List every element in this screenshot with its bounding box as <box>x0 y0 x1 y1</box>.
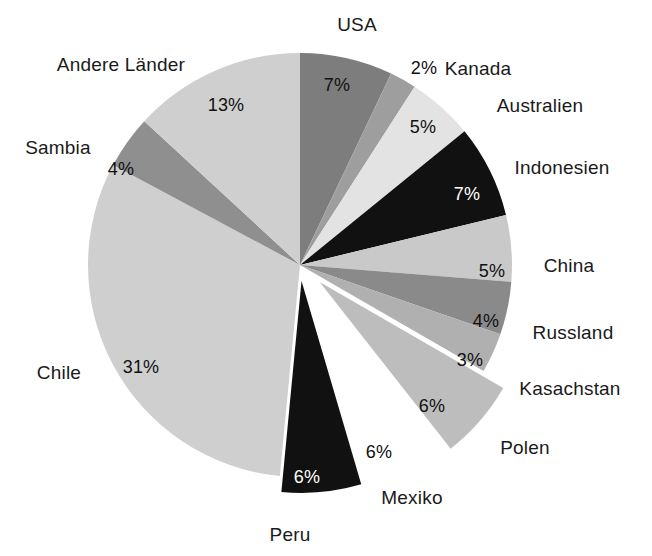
percent-label-polen: 6% <box>419 397 445 415</box>
category-label-chile: Chile <box>37 363 81 382</box>
category-label-usa: USA <box>337 15 377 34</box>
category-label-kasachstan: Kasachstan <box>519 379 620 398</box>
percent-label-russland: 4% <box>473 312 499 330</box>
category-label-australien: Australien <box>497 96 584 115</box>
percent-label-kasachstan: 3% <box>457 351 483 369</box>
percent-label-indonesien: 7% <box>454 185 480 203</box>
percent-label-australien: 5% <box>410 118 436 136</box>
percent-label-kanada: 2% <box>411 59 437 77</box>
percent-label-sambia: 4% <box>108 160 134 178</box>
percent-label-mexiko: 6% <box>366 443 392 461</box>
category-label-peru: Peru <box>270 525 311 544</box>
category-label-polen: Polen <box>500 438 550 457</box>
percent-label-usa: 7% <box>324 76 350 94</box>
category-label-china: China <box>544 256 595 275</box>
percent-label-peru: 6% <box>294 468 320 486</box>
category-label-kanada: Kanada <box>445 59 512 78</box>
category-label-andere-lander: Andere Länder <box>57 55 185 74</box>
percent-label-chile: 31% <box>123 358 160 376</box>
category-label-indonesien: Indonesien <box>515 158 610 177</box>
category-label-russland: Russland <box>533 323 614 342</box>
pie-chart-figure: USAKanadaAustralienIndonesienChinaRussla… <box>0 0 652 556</box>
category-label-sambia: Sambia <box>25 138 91 157</box>
pie-slice-group <box>88 53 512 493</box>
category-label-mexiko: Mexiko <box>381 488 442 507</box>
percent-label-andere-lander: 13% <box>208 96 245 114</box>
percent-label-china: 5% <box>479 262 505 280</box>
